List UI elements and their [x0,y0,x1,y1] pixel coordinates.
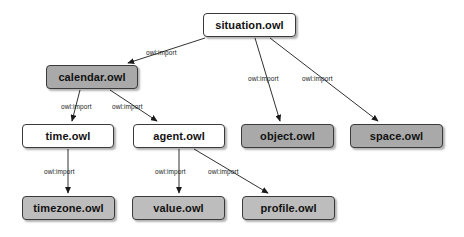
diagram-canvas: situation.owlcalendar.owltime.owlagent.o… [0,0,464,237]
node-timezone[interactable]: timezone.owl [22,196,115,220]
node-label: situation.owl [215,19,284,31]
node-profile[interactable]: profile.owl [242,196,335,220]
node-object[interactable]: object.owl [241,124,334,148]
node-label: timezone.owl [33,202,103,214]
node-agent[interactable]: agent.owl [133,124,225,148]
node-label: value.owl [153,202,203,214]
edge-label-calendar-time: owl:import [61,103,92,110]
edge-label-agent-value: owl:import [155,168,186,175]
node-label: agent.owl [153,130,205,142]
node-label: space.owl [370,130,423,142]
node-calendar[interactable]: calendar.owl [46,65,138,89]
edge-label-situation-space: owl:import [302,75,333,82]
edge-label-time-timezone: owl:import [44,168,75,175]
node-label: object.owl [260,130,315,142]
edge-label-situation-calendar: owl:import [146,49,177,56]
node-value[interactable]: value.owl [132,196,225,220]
edge-label-situation-object: owl:import [248,75,279,82]
node-space[interactable]: space.owl [350,124,443,148]
edge-label-calendar-agent: owl:import [112,103,143,110]
node-label: calendar.owl [58,71,125,83]
node-label: profile.owl [260,202,316,214]
node-situation[interactable]: situation.owl [203,13,296,37]
node-time[interactable]: time.owl [22,124,114,148]
edge-label-agent-profile: owl:import [208,168,239,175]
node-label: time.owl [46,130,91,142]
